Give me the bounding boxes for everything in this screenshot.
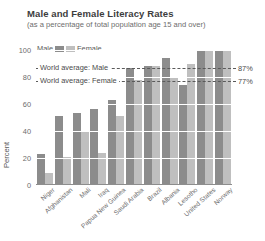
y-axis-label: Percent <box>2 142 11 168</box>
bar-group <box>196 50 214 185</box>
y-axis-tick-label: 100 <box>19 46 31 55</box>
x-axis-baseline <box>36 184 232 185</box>
gridline <box>36 158 232 159</box>
gridline <box>36 104 232 105</box>
bar-female <box>152 66 160 185</box>
reference-line-value: 77% <box>238 77 253 86</box>
bar-group <box>214 50 232 185</box>
reference-line-label: World average: Female <box>38 76 119 85</box>
page-title: Male and Female Literacy Rates <box>27 8 237 19</box>
gridline <box>36 50 232 51</box>
bar-female <box>63 157 71 185</box>
bar-male <box>179 85 187 185</box>
y-axis-tick-label: 60 <box>23 100 31 109</box>
x-axis-tick-label: Iraq <box>96 186 109 199</box>
bar-female <box>134 80 142 185</box>
bar-group <box>179 50 197 185</box>
x-axis: NigerAfghanistanMaliIraqPapua New Guinea… <box>36 186 232 241</box>
bar-male <box>215 50 223 185</box>
bar-male <box>144 66 152 185</box>
bar-male <box>73 113 81 185</box>
bar-male <box>126 68 134 185</box>
bar-female <box>205 51 213 185</box>
y-axis: Percent 020406080100 <box>0 50 34 186</box>
x-axis-tick-label: Mali <box>78 186 92 199</box>
title-block: Male and Female Literacy Rates (as a per… <box>27 8 237 30</box>
bar-group <box>125 50 143 185</box>
gridline <box>36 131 232 132</box>
y-axis-tick-label: 80 <box>23 73 31 82</box>
bar-male <box>90 109 98 185</box>
y-axis-tick-label: 40 <box>23 127 31 136</box>
bar-male <box>197 51 205 185</box>
reference-line-label: World average: Male <box>38 63 110 72</box>
bar-male <box>55 116 63 185</box>
literacy-rates-chart: Male and Female Literacy Rates (as a per… <box>0 0 265 241</box>
y-axis-tick-label: 0 <box>27 181 31 190</box>
bar-female <box>116 116 124 185</box>
y-axis-tick-label: 20 <box>23 154 31 163</box>
chart-subtitle: (as a percentage of total population age… <box>27 21 237 30</box>
bar-female <box>223 50 231 185</box>
bar-group <box>161 50 179 185</box>
bar-male <box>108 100 116 185</box>
bar-group <box>143 50 161 185</box>
reference-line-value: 87% <box>238 64 253 73</box>
